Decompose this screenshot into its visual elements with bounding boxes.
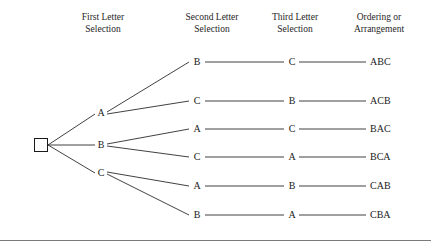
edge-c-to-a2 — [107, 172, 189, 186]
level2-node-row2: C — [194, 96, 201, 106]
edge-root-to-c — [48, 145, 95, 173]
edge-b-to-a2 — [107, 129, 189, 144]
level1-node-c: C — [98, 168, 105, 178]
edge-a-to-b2 — [107, 62, 189, 112]
outcome-abc: ABC — [370, 57, 391, 67]
level3-node-row3: C — [289, 124, 296, 134]
edge-root-to-a — [48, 114, 95, 145]
level3-node-row4: A — [288, 152, 295, 162]
level2-node-row1: B — [194, 57, 201, 67]
edge-a-to-c2 — [107, 101, 189, 114]
level3-node-row1: C — [289, 57, 296, 67]
level1-node-b: B — [98, 140, 105, 150]
level1-node-a: A — [97, 108, 104, 118]
outcome-cba: CBA — [370, 210, 391, 220]
level2-node-row5: A — [193, 181, 200, 191]
level3-node-row6: A — [288, 210, 295, 220]
outcome-bca: BCA — [370, 152, 391, 162]
edge-b-to-c2 — [107, 146, 189, 157]
outcome-cab: CAB — [370, 181, 391, 191]
level2-node-row3: A — [193, 124, 200, 134]
outcome-acb: ACB — [370, 96, 391, 106]
root-node-square — [34, 138, 48, 152]
edge-c-to-b2 — [107, 174, 189, 215]
level3-node-row2: B — [289, 96, 296, 106]
level3-node-row5: B — [289, 181, 296, 191]
permutation-tree-diagram: First Letter Selection Second Letter Sel… — [0, 0, 439, 251]
level2-node-row4: C — [194, 152, 201, 162]
outcome-bac: BAC — [370, 124, 391, 134]
bottom-divider-rule — [0, 240, 431, 241]
level2-node-row6: B — [194, 210, 201, 220]
